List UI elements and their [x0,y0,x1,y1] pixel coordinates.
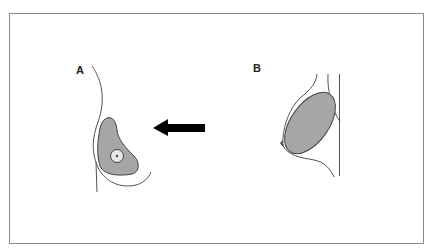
arrow-left-icon [153,119,205,136]
panel-a-nipple [116,155,118,157]
panel-a-breast-mound [98,118,139,175]
diagram-canvas [0,0,434,250]
panel-a-drawing [92,66,151,192]
panel-a-body-tail [96,162,97,192]
panel-b-implant [274,83,345,162]
panel-b-drawing [274,74,345,177]
